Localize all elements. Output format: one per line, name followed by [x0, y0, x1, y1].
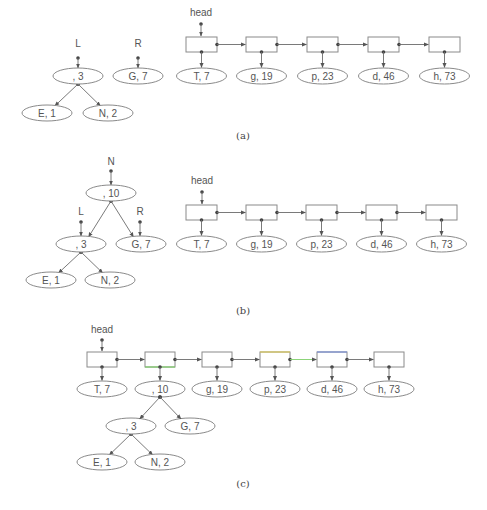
edge-arrow [111, 201, 134, 237]
tree-node: d, 46 [357, 236, 407, 252]
tree-node: N, 2 [85, 272, 135, 288]
list-node: T, 7 [77, 352, 145, 397]
node-label: E, 1 [42, 275, 60, 286]
edge-arrow [59, 252, 82, 273]
edge-arrow [89, 201, 112, 237]
tree-node: E, 1 [77, 454, 127, 470]
list-node: p, 23 [298, 37, 368, 84]
list-node-box [246, 205, 277, 220]
edge-arrow [131, 434, 153, 455]
list-node-box [145, 352, 175, 367]
list-node-box [374, 352, 404, 367]
panel-caption-b: (b) [236, 305, 250, 316]
tree-node: T, 7 [177, 236, 227, 252]
node-label: N, 2 [151, 457, 170, 468]
tree-node: p, 23 [298, 68, 348, 84]
tree-node: , 3 [106, 418, 156, 434]
pointer-label-l: L [75, 38, 81, 49]
edge-arrow [81, 252, 103, 273]
node-label: G, 7 [129, 71, 148, 82]
list-node-box [246, 37, 277, 52]
tree-node: T, 7 [77, 381, 127, 397]
node-label: d, 46 [321, 384, 344, 395]
tree-node: h, 73 [417, 236, 467, 252]
tree-node: N, 2 [83, 105, 133, 121]
panel-caption-c: (c) [236, 478, 250, 489]
edge-arrow [109, 434, 131, 455]
list-node-box [368, 37, 399, 52]
panel-b: NLR, 10, 3G, 7E, 1N, 2headT, 7g, 19p, 23… [26, 156, 467, 316]
tree-node: G, 7 [116, 236, 166, 252]
head-label: head [191, 175, 213, 186]
list-node: p, 23 [297, 205, 366, 252]
node-label: G, 7 [181, 421, 200, 432]
node-label: d, 46 [372, 71, 395, 82]
tree-node: , 10 [86, 185, 136, 201]
pointer-label-l: L [78, 206, 84, 217]
list-node: , 10 [135, 352, 202, 397]
list-node: g, 19 [237, 37, 307, 84]
list-node-box [366, 205, 397, 220]
pointer-label-n: N [107, 156, 114, 167]
list-node-box [429, 37, 460, 52]
tree-node: d, 46 [359, 68, 409, 84]
node-label: , 10 [152, 384, 169, 395]
node-label: , 3 [125, 421, 137, 432]
panel-a: LR, 3E, 1N, 2G, 7headT, 7g, 19p, 23d, 46… [22, 7, 470, 141]
list-node: g, 19 [192, 352, 260, 397]
list-node: d, 46 [307, 352, 374, 397]
node-label: p, 23 [264, 384, 287, 395]
panel-caption-a: (a) [236, 130, 250, 141]
tree-node: g, 19 [192, 381, 242, 397]
list-node-box [87, 352, 117, 367]
tree-node: , 10 [135, 381, 185, 397]
list-node-box [307, 37, 338, 52]
pointer-label-r: R [134, 38, 141, 49]
tree-node: T, 7 [177, 68, 227, 84]
head-label: head [91, 324, 113, 335]
list-node: g, 19 [237, 205, 306, 252]
list-node: T, 7 [177, 205, 246, 252]
node-label: g, 19 [206, 384, 229, 395]
node-label: h, 73 [433, 71, 456, 82]
list-node-box [186, 37, 217, 52]
node-label: h, 73 [430, 239, 453, 250]
node-label: d, 46 [370, 239, 393, 250]
tree-node: g, 19 [237, 68, 287, 84]
list-node-box [306, 205, 337, 220]
head-label: head [190, 7, 212, 18]
node-label: G, 7 [132, 239, 151, 250]
tree-node: E, 1 [22, 105, 72, 121]
tree-node: , 3 [53, 68, 103, 84]
tree-node: , 3 [56, 236, 106, 252]
node-label: N, 2 [101, 275, 120, 286]
node-label: h, 73 [378, 384, 401, 395]
node-label: p, 23 [311, 71, 334, 82]
list-node: d, 46 [357, 205, 426, 252]
tree-node: E, 1 [26, 272, 76, 288]
tree-node: d, 46 [307, 381, 357, 397]
node-label: g, 19 [250, 239, 273, 250]
node-label: , 10 [103, 188, 120, 199]
list-node-box [260, 352, 290, 367]
tree-node: p, 23 [250, 381, 300, 397]
tree-node: G, 7 [165, 418, 215, 434]
list-node-box [426, 205, 457, 220]
list-node: d, 46 [359, 37, 429, 84]
list-node-box [317, 352, 347, 367]
edge-arrow [160, 397, 181, 419]
node-label: E, 1 [93, 457, 111, 468]
edge-arrow [78, 84, 101, 106]
panel-c: , 3G, 7E, 1N, 2headT, 7, 10g, 19p, 23d, … [77, 324, 414, 489]
node-label: g, 19 [250, 71, 273, 82]
tree-node: N, 2 [135, 454, 185, 470]
tree-node: h, 73 [364, 381, 414, 397]
edge-arrow [140, 397, 160, 419]
node-label: p, 23 [310, 239, 333, 250]
node-label: , 3 [75, 239, 87, 250]
pointer-label-r: R [136, 206, 143, 217]
huffman-linked-list-diagram: LR, 3E, 1N, 2G, 7headT, 7g, 19p, 23d, 46… [0, 0, 487, 510]
node-label: T, 7 [94, 384, 111, 395]
node-label: T, 7 [193, 71, 210, 82]
list-node: p, 23 [250, 352, 317, 397]
